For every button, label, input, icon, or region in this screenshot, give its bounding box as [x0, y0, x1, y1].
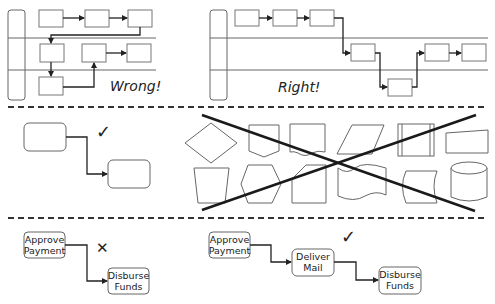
process-box: [39, 77, 63, 95]
swimlane-wrong: Wrong!: [8, 10, 161, 100]
process-box: [388, 79, 412, 96]
swimlane-right: Right!: [210, 10, 488, 100]
process-box: [351, 44, 375, 61]
rounded-process-box: [24, 123, 66, 151]
shapes-bad-examples: [185, 115, 488, 211]
rounded-process-box: [108, 160, 150, 188]
naming-good-example: Approve Payment Deliver Mail Disburse Fu…: [209, 226, 421, 294]
right-label: Right!: [278, 79, 320, 95]
process-box: [310, 10, 334, 26]
svg-text:Deliver: Deliver: [296, 251, 330, 262]
punched-tape: [338, 165, 386, 200]
manual-input: [446, 130, 488, 153]
svg-text:Disburse: Disburse: [379, 269, 421, 280]
process-box: [425, 44, 449, 61]
svg-text:Approve: Approve: [210, 234, 250, 245]
lane-header: [210, 10, 227, 100]
svg-text:Disburse: Disburse: [108, 270, 150, 281]
cross-mark-icon: ✕: [96, 239, 109, 257]
svg-text:Approve: Approve: [25, 234, 65, 245]
process-box: [273, 10, 297, 26]
process-box: [85, 10, 109, 27]
shapes-good-example: ✓: [24, 121, 150, 188]
svg-text:Payment: Payment: [24, 245, 66, 256]
diagram-canvas: Wrong! Right! ✓: [0, 0, 495, 304]
process-box: [235, 10, 259, 26]
checkmark-icon: ✓: [341, 226, 356, 247]
process-box: [462, 44, 486, 61]
process-box: [127, 44, 151, 62]
svg-text:Mail: Mail: [303, 262, 322, 273]
naming-bad-example: Approve Payment Disburse Funds ✕: [24, 232, 150, 294]
process-box: [128, 10, 152, 27]
manual-operation: [194, 168, 229, 203]
card-shape: [292, 165, 326, 203]
decision-diamond: [185, 123, 237, 163]
process-box: [82, 44, 106, 62]
svg-text:Payment: Payment: [209, 245, 251, 256]
lane-header: [8, 10, 25, 100]
process-box: [39, 10, 63, 27]
checkmark-icon: ✓: [96, 121, 111, 142]
process-box: [40, 44, 64, 62]
wrong-label: Wrong!: [110, 78, 161, 94]
svg-text:Funds: Funds: [386, 280, 414, 291]
svg-text:Funds: Funds: [115, 281, 143, 292]
